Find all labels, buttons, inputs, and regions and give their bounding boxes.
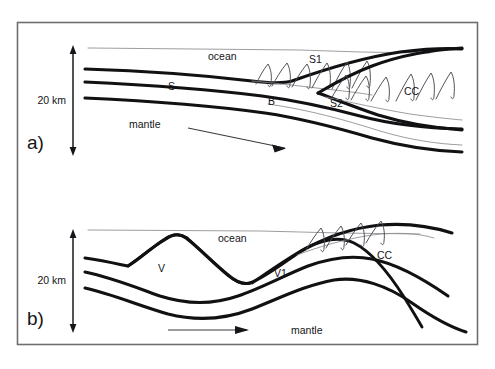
panel-a-thrust-cc-3 xyxy=(371,77,389,102)
panel-a-thrust-cc-2 xyxy=(351,76,369,101)
figure-root: 20 km a) ocean mantle S S1 S2 B CC xyxy=(0,0,495,369)
panel-b-scale-arrow-top xyxy=(70,229,77,238)
cross-section-diagram: 20 km a) ocean mantle S S1 S2 B CC xyxy=(0,0,495,369)
panel-a-backstop-label: B xyxy=(268,95,275,107)
panel-a-thrust-cc-6 xyxy=(436,72,454,99)
panel-a-ocean-label: ocean xyxy=(208,50,237,62)
panel-a-seafloor-top xyxy=(85,49,462,83)
panel-b-volcano-label: V xyxy=(158,262,165,274)
panel-a-wedge-s1-label: S1 xyxy=(309,53,322,65)
panel-a-sediment-label: S xyxy=(168,80,175,92)
panel-a-cc-label: CC xyxy=(404,85,420,97)
panel-a-arrow-head xyxy=(272,144,286,152)
panel-b-mantle-label: mantle xyxy=(291,324,323,336)
panel-a: 20 km a) ocean mantle S S1 S2 B CC xyxy=(27,45,462,156)
panel-b-sea-level-line xyxy=(88,230,420,234)
panel-a-mantle-label: mantle xyxy=(129,118,161,130)
panel-a-scale-arrow-top xyxy=(70,45,77,54)
panel-b-volcano-right-flank xyxy=(187,238,250,284)
panel-b-scale-arrow-bottom xyxy=(70,324,77,333)
panel-b-cc-label: CC xyxy=(377,249,393,261)
panel-a-sea-level-line xyxy=(88,48,430,53)
panel-b-ocean-label: ocean xyxy=(218,232,247,244)
panel-a-label: a) xyxy=(27,132,44,153)
panel-b-convergence-arrow xyxy=(168,326,249,334)
panel-a-scale-arrow-bottom xyxy=(70,147,77,156)
panel-b-arc-label: V1 xyxy=(274,267,287,279)
figure-frame xyxy=(18,23,478,345)
panel-b-arc-root xyxy=(252,239,422,327)
panel-a-convergence-arrow xyxy=(188,128,286,153)
panel-b: 20 km b) ocean mantle V V1 CC xyxy=(27,221,466,336)
panel-a-thrust-s1-4 xyxy=(312,63,330,89)
panel-a-arrow-shaft xyxy=(188,128,285,148)
panel-a-cc-base-line xyxy=(325,97,462,120)
panel-b-label: b) xyxy=(27,308,44,329)
panel-b-arrow-head xyxy=(235,326,249,334)
panel-a-wedge-s2-label: S2 xyxy=(330,97,343,109)
panel-a-scale-label: 20 km xyxy=(37,94,66,106)
panel-b-scale-label: 20 km xyxy=(37,274,66,286)
